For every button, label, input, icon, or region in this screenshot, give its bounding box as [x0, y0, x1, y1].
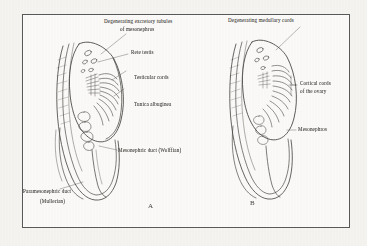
label-tunica-albuginea: Tunica albuginea	[134, 101, 171, 107]
panel-letter-a: A	[148, 202, 153, 210]
label-rete-testis: Rete testis	[131, 49, 154, 55]
label-mesonephros: Mesonephros	[298, 126, 327, 132]
figure-plate	[22, 14, 350, 228]
label-cortical-cords-line1: Cortical cords	[300, 80, 331, 86]
panel-letter-b: B	[250, 199, 255, 207]
label-paramesonephric-duct-line2: (Mullerian)	[40, 198, 65, 204]
label-paramesonephric-duct-line1: Paramesonephric duct	[23, 188, 71, 194]
label-degenerating-excretory-tubules-line1: Degenerating excretory tubules	[104, 18, 172, 24]
label-mesonephric-duct: Mesonephric duct (Wolffian)	[118, 147, 181, 153]
label-degenerating-medullary-cords: Degenerating medullary cords	[228, 17, 294, 23]
label-testicular-cords: Testicular cords	[134, 74, 169, 80]
label-cortical-cords-line2: of the ovary	[300, 88, 326, 94]
label-degenerating-excretory-tubules-line2: of mesonephros	[120, 26, 155, 32]
figure-root: Degenerating excretory tubules of mesone…	[0, 0, 367, 246]
